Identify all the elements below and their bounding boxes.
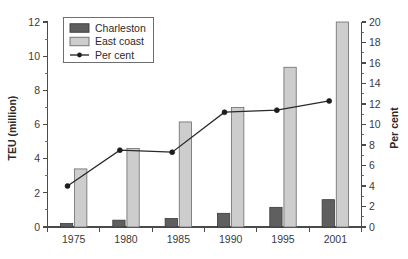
legend-marker-per-cent bbox=[77, 53, 82, 58]
percent-data-point bbox=[117, 148, 122, 153]
bottom-axis bbox=[48, 227, 362, 232]
chart-legend: CharlestonEast coastPer cent bbox=[63, 17, 153, 62]
x-tick-label: 2001 bbox=[324, 233, 348, 245]
x-tick-label: 1995 bbox=[271, 233, 295, 245]
bar-east-coast bbox=[179, 122, 191, 227]
bar-east-coast bbox=[284, 67, 296, 227]
percent-data-point bbox=[170, 150, 175, 155]
right-tick-label: 8 bbox=[369, 139, 375, 151]
bar-charleston bbox=[165, 218, 177, 227]
left-tick-label: 12 bbox=[28, 16, 40, 28]
right-tick-label: 0 bbox=[369, 221, 375, 233]
left-axis-title: TEU (million) bbox=[6, 96, 18, 161]
bar-charleston bbox=[270, 207, 282, 227]
percent-data-point bbox=[274, 108, 279, 113]
bar-charleston bbox=[217, 213, 229, 227]
left-tick-label: 0 bbox=[34, 221, 40, 233]
legend-label-per-cent: Per cent bbox=[95, 49, 134, 61]
right-tick-label: 14 bbox=[369, 77, 381, 89]
right-tick-label: 6 bbox=[369, 159, 375, 171]
right-tick-label: 16 bbox=[369, 57, 381, 69]
right-tick-label: 2 bbox=[369, 200, 375, 212]
left-axis: 024681012 bbox=[28, 16, 47, 233]
percent-data-point bbox=[65, 184, 70, 189]
bar-east-coast bbox=[127, 148, 139, 227]
bar-charleston bbox=[60, 224, 72, 227]
bar-line-combo-chart: 024681012 02468101214161820 197519801985… bbox=[0, 0, 408, 259]
left-tick-label: 8 bbox=[34, 84, 40, 96]
right-tick-label: 10 bbox=[369, 118, 381, 130]
right-tick-label: 12 bbox=[369, 98, 381, 110]
left-tick-label: 4 bbox=[34, 152, 40, 164]
percent-data-point bbox=[327, 98, 332, 103]
x-tick-label: 1990 bbox=[219, 233, 243, 245]
legend-swatch-east-coast bbox=[70, 37, 89, 46]
chart-container: 024681012 02468101214161820 197519801985… bbox=[0, 0, 408, 259]
legend-label-east-coast: East coast bbox=[95, 35, 144, 47]
right-tick-label: 20 bbox=[369, 16, 381, 28]
left-tick-label: 10 bbox=[28, 50, 40, 62]
right-tick-label: 18 bbox=[369, 36, 381, 48]
right-tick-label: 4 bbox=[369, 180, 375, 192]
left-tick-label: 2 bbox=[34, 187, 40, 199]
x-tick-labels: 197519801985199019952001 bbox=[62, 233, 347, 245]
bar-east-coast bbox=[336, 22, 348, 227]
legend-label-charleston: Charleston bbox=[95, 22, 146, 34]
right-axis-title: Per cent bbox=[388, 107, 400, 149]
bar-charleston bbox=[113, 220, 125, 227]
bar-east-coast bbox=[232, 107, 244, 227]
right-axis: 02468101214161820 bbox=[362, 16, 381, 233]
legend-swatch-charleston bbox=[70, 24, 89, 33]
x-tick-label: 1980 bbox=[114, 233, 138, 245]
left-tick-label: 6 bbox=[34, 118, 40, 130]
bar-charleston bbox=[322, 200, 334, 227]
x-tick-label: 1975 bbox=[62, 233, 86, 245]
percent-data-point bbox=[222, 110, 227, 115]
x-tick-label: 1985 bbox=[167, 233, 191, 245]
